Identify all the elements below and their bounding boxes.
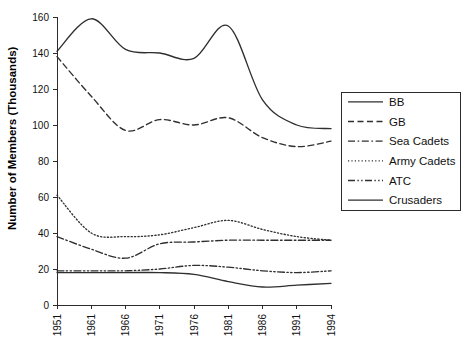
y-axis-title: Number of Members (Thousands) [6,46,18,230]
series-line-atc [57,265,331,272]
x-tick-label: 1971 [154,314,165,337]
series-lines [57,19,331,287]
y-tick-label: 60 [38,192,50,203]
y-axis-title-text: Number of Members (Thousands) [6,46,18,230]
y-tick-label: 20 [38,264,50,275]
legend-label-atc: ATC [389,175,411,187]
legend-label-sea-cadets: Sea Cadets [389,135,449,147]
x-tick-label: 1981 [223,314,234,337]
chart-canvas: Number of Members (Thousands) 0204060801… [0,0,465,353]
legend-label-gb: GB [389,116,406,128]
series-line-army-cadets [57,195,331,240]
x-tick-label: 1991 [291,314,302,337]
y-tick-label: 140 [32,48,49,59]
series-line-crusaders [57,272,331,287]
legend-border [341,92,460,210]
y-tick-label: 40 [38,228,50,239]
x-tick-label: 1976 [189,314,200,337]
y-tick-label: 0 [43,300,49,311]
y-axis-ticks: 020406080100120140160 [32,12,57,311]
line-chart: Number of Members (Thousands) 0204060801… [0,0,465,353]
series-line-gb [57,57,331,147]
x-axis-ticks: 195119611966197119761981198619911994 [52,305,337,336]
x-tick-label: 1966 [120,314,131,337]
x-tick-label: 1986 [257,314,268,337]
legend-label-army-cadets: Army Cadets [389,155,456,167]
legend-label-crusaders: Crusaders [389,194,442,206]
series-line-sea-cadets [57,237,331,259]
chart-legend: BBGBSea CadetsArmy CadetsATCCrusaders [341,92,460,210]
legend-label-bb: BB [389,96,405,108]
x-tick-label: 1994 [326,314,337,337]
y-tick-label: 160 [32,12,49,23]
x-tick-label: 1951 [52,314,63,337]
y-tick-label: 80 [38,156,50,167]
x-tick-label: 1961 [86,314,97,337]
y-tick-label: 120 [32,84,49,95]
series-line-bb [57,19,331,129]
y-tick-label: 100 [32,120,49,131]
